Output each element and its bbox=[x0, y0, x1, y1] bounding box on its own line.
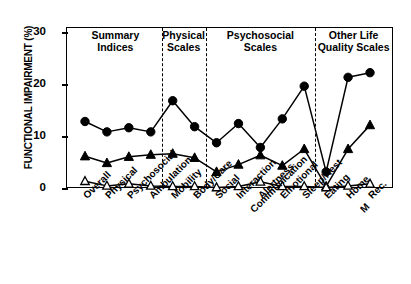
x-tick-label: M bbox=[358, 201, 372, 215]
x-axis-tick-labels: OverallPhysicalPsychosocialAmbulationMob… bbox=[0, 0, 411, 284]
chart-figure: FUNCTIONAL IMPAIRMENT (%) 0102030 Summar… bbox=[0, 0, 411, 284]
